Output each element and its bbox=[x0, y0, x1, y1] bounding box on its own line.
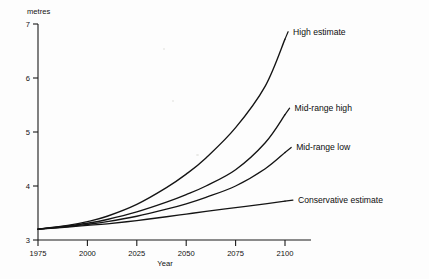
y-axis-unit-label: metres bbox=[27, 7, 50, 16]
y-tick-label-4: 4 bbox=[26, 182, 30, 191]
series-label-conservative-estimate: Conservative estimate bbox=[298, 195, 383, 205]
x-tick-label-2000: 2000 bbox=[79, 249, 96, 258]
curve-high-estimate bbox=[38, 39, 285, 229]
series-curves bbox=[38, 39, 285, 229]
x-axis: 197520002025205020752100 Year bbox=[30, 240, 311, 268]
leader-high-estimate bbox=[285, 32, 288, 39]
x-axis-title: Year bbox=[157, 259, 173, 268]
y-tick-label-5: 5 bbox=[26, 128, 30, 137]
series-labels: High estimateMid-range highMid-range low… bbox=[293, 27, 383, 205]
curve-mid-range-high bbox=[38, 115, 285, 229]
x-tick-label-2075: 2075 bbox=[227, 249, 244, 258]
series-label-mid-range-low: Mid-range low bbox=[296, 142, 351, 152]
y-tick-label-7: 7 bbox=[26, 20, 30, 29]
x-tick-label-1975: 1975 bbox=[30, 249, 47, 258]
series-label-high-estimate: High estimate bbox=[293, 27, 346, 37]
leader-conservative-estimate bbox=[285, 200, 293, 201]
y-axis: 34567 bbox=[26, 20, 38, 245]
x-tick-group: 197520002025205020752100 bbox=[30, 240, 294, 258]
y-tick-group: 34567 bbox=[26, 20, 38, 245]
y-axis-unit-label-group: metres bbox=[27, 7, 50, 16]
leader-mid-range-low bbox=[285, 147, 291, 152]
series-label-mid-range-high: Mid-range high bbox=[295, 103, 353, 113]
chart-canvas: metres 34567 197520002025205020752100 Ye… bbox=[0, 0, 429, 279]
leader-mid-range-high bbox=[285, 108, 290, 115]
sea-level-rise-chart: metres 34567 197520002025205020752100 Ye… bbox=[0, 0, 429, 279]
y-tick-label-6: 6 bbox=[26, 74, 30, 83]
x-tick-label-2100: 2100 bbox=[277, 249, 294, 258]
x-tick-label-2050: 2050 bbox=[178, 249, 195, 258]
x-tick-label-2025: 2025 bbox=[128, 249, 145, 258]
series-leader-lines bbox=[285, 32, 293, 201]
y-tick-label-3: 3 bbox=[26, 236, 30, 245]
